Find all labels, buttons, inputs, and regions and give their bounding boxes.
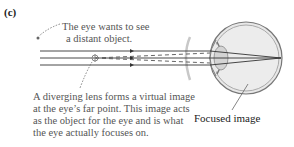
panel-label: (c)	[4, 6, 16, 18]
diverging-lens-annotation: A diverging lens forms a virtual image a…	[33, 91, 195, 139]
ray-arrowheads	[130, 49, 134, 67]
annotation-line: as the object for the eye and is what	[33, 115, 195, 127]
annotation-line: a distant object.	[62, 33, 149, 45]
diverging-lens	[186, 37, 190, 80]
parallel-rays	[40, 51, 210, 65]
leader-diverging	[80, 62, 92, 88]
focused-image-label: Focused image	[194, 112, 260, 124]
annotation-line: The eye wants to see	[62, 21, 149, 33]
eye-wants-annotation: The eye wants to see a distant object.	[62, 21, 149, 45]
annotation-line: A diverging lens forms a virtual image	[33, 91, 195, 103]
annotation-line: at the eye’s far point. This image acts	[33, 103, 195, 115]
leader-eye-wants	[39, 24, 60, 36]
annotation-line: the eye actually focuses on.	[33, 127, 195, 139]
